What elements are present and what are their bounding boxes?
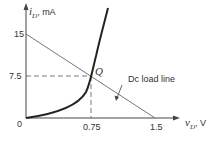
x-axis-label: vD, V (185, 116, 206, 131)
q-point-label: Q (95, 65, 103, 77)
diode-load-line-diagram: iD, mA 15 7.5 0 0.75 1.5 vD, V Q Dc load… (0, 0, 217, 143)
x-tick-0-75: 0.75 (83, 122, 101, 132)
load-line-label: Dc load line (128, 74, 175, 84)
y-axis-label: iD, mA (29, 5, 56, 20)
y-tick-15: 15 (14, 29, 24, 39)
y-axis-arrow-icon (24, 3, 29, 10)
diode-characteristic-curve (26, 8, 108, 118)
x-axis-arrow-icon (173, 116, 180, 121)
axes (24, 3, 181, 121)
origin-label: 0 (17, 119, 22, 129)
y-tick-7-5: 7.5 (9, 71, 22, 81)
x-tick-1-5: 1.5 (150, 122, 163, 132)
arrowhead-icon (115, 96, 120, 102)
